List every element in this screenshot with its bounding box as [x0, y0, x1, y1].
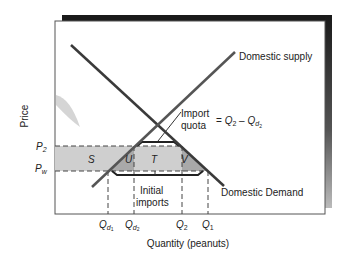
area-t-label: T: [151, 154, 158, 165]
import-quota-label-line2: quota: [181, 120, 206, 131]
p2-label: P2: [36, 141, 47, 153]
q1-label: Q1: [202, 219, 214, 231]
import-quota-label-line1: Import: [181, 108, 210, 119]
y-axis-title: Price: [19, 104, 30, 127]
area-u-label: U: [125, 154, 133, 165]
qd2-label: Qd2: [125, 219, 140, 232]
initial-imports-line1: Initial: [140, 185, 163, 196]
pw-label: Pw: [35, 163, 48, 175]
initial-imports-line2: imports: [136, 197, 169, 208]
q2-label: Q2: [176, 219, 188, 231]
supply-label: Domestic supply: [239, 51, 312, 62]
demand-label: Domestic Demand: [221, 187, 303, 198]
area-s-label: S: [88, 154, 95, 165]
qd1-label: Qd1: [99, 219, 114, 232]
diagram-canvas: S U T V Domestic supply Domestic Demand …: [0, 0, 347, 263]
x-axis-title: Quantity (peanuts): [147, 238, 229, 249]
area-t: [134, 146, 182, 171]
